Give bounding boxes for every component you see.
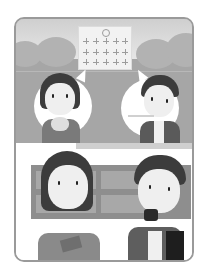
window-strip (76, 143, 194, 149)
girl-face (45, 83, 75, 115)
illustration-frame (14, 17, 194, 262)
backpack-icon (166, 231, 184, 262)
eye-icon (149, 185, 151, 189)
eye-icon (52, 94, 54, 98)
eye-icon (166, 99, 168, 103)
top-panel (16, 19, 192, 143)
rice-ball-icon (144, 209, 158, 221)
ground-line (16, 71, 192, 72)
chopsticks-icon (128, 115, 154, 117)
eye-icon (168, 187, 170, 191)
clock-icon (102, 29, 110, 37)
bottom-panel (16, 143, 192, 262)
boy-face (138, 169, 180, 213)
eye-icon (66, 94, 68, 98)
boy-shirt-front (148, 231, 162, 262)
school-building-icon (78, 26, 132, 70)
girl-face (48, 165, 88, 209)
eye-icon (58, 181, 60, 185)
eye-icon (76, 181, 78, 185)
girl-hands-rice-ball (51, 117, 69, 131)
boy-face (144, 85, 174, 117)
eye-icon (151, 97, 153, 101)
tree (36, 37, 76, 67)
boy-shirt-front (154, 121, 164, 143)
